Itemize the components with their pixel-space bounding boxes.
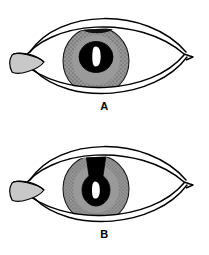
eye-illustration-a — [0, 0, 209, 110]
pupil-highlight-a — [92, 47, 100, 67]
panel-b: B — [0, 128, 209, 255]
eye-diagram-figure: A — [0, 0, 209, 255]
panel-a-label: A — [0, 100, 209, 112]
panel-b-label: B — [0, 228, 209, 240]
eye-illustration-b — [0, 128, 209, 238]
pupil-highlight-b — [92, 182, 100, 199]
panel-a: A — [0, 0, 209, 127]
